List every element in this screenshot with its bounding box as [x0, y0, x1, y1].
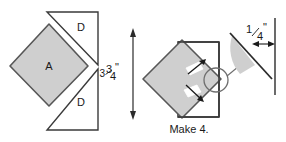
quilt-block-diagram: A D D 3 3 4 " [0, 0, 286, 142]
figure-caption: Make 4. [169, 123, 208, 135]
dimension-unit-inches: " [115, 61, 119, 73]
seam-unit-inches: " [263, 21, 267, 33]
piece-label-a: A [45, 60, 53, 72]
seam-fraction-numerator: 1 [246, 23, 252, 35]
piece-label-d-upper: D [77, 21, 85, 33]
diagram-canvas: A D D 3 3 4 " [0, 0, 286, 142]
piece-label-d-lower: D [77, 96, 85, 108]
dimension-whole: 3 [99, 68, 105, 79]
